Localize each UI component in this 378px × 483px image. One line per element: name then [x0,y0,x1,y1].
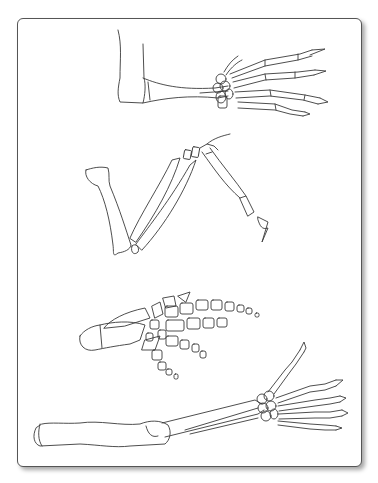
limb-4-arm-skeleton [34,342,348,447]
limb-3-flipper-skeleton [80,292,259,379]
limb-1-hand-skeleton [118,30,328,116]
limb-skeletons-illustration [0,0,378,483]
limb-2-wing-skeleton [86,134,268,255]
